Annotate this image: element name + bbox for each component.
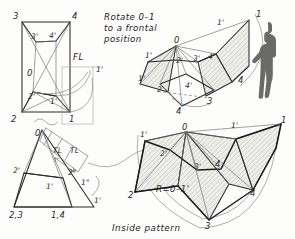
instruction-line-3: position	[103, 34, 142, 44]
instruction-line-2: to a frontal	[104, 23, 157, 33]
label-top-1: 1	[69, 114, 75, 124]
human-figure-for-scale	[252, 22, 276, 99]
label-front-23: 2,3	[9, 210, 23, 220]
inside-pattern-group: 0 1' 1 1' 2' 3' 4 2 4 3 R=0–1'	[128, 115, 287, 231]
label-pat-2: 2	[128, 190, 134, 200]
label-pic-4-bottom: 4	[176, 106, 182, 116]
label-pic-1p-lower: 1'	[138, 74, 145, 83]
label-top-2p: 2'	[28, 92, 35, 101]
label-top-2: 2	[11, 114, 17, 124]
label-fold-line: FL	[73, 52, 84, 62]
label-front-14: 1,4	[51, 210, 65, 220]
label-front-1pp: 1"	[81, 178, 90, 187]
label-radius-note: R=0–1'	[156, 184, 189, 194]
drawing-sheet: 3 4 3' 4' 0 2' 1' 2 1 FL 1' Rotate 0–1 t…	[0, 0, 295, 239]
label-top-3: 3	[13, 11, 19, 21]
label-pat-4: 4	[250, 188, 256, 198]
label-pat-3-bottom: 3	[205, 221, 211, 231]
true-length-band	[40, 128, 88, 172]
top-view-group: 3 4 3' 4' 0 2' 1' 2 1 FL 1'	[11, 11, 103, 124]
label-pat-1p-top: 1'	[231, 121, 238, 130]
label-pic-4p: 4'	[208, 52, 215, 61]
label-top-3p: 3'	[31, 32, 38, 41]
label-rotated-1p: 1'	[96, 65, 103, 74]
caption-inside-pattern: Inside pattern	[112, 223, 180, 233]
label-top-4: 4	[72, 11, 78, 21]
instruction-note: Rotate 0–1 to a frontal position	[103, 12, 157, 44]
label-front-1p: 1'	[46, 182, 53, 191]
label-pic-4-right: 4	[238, 75, 244, 85]
label-top-1p: 1'	[50, 97, 57, 106]
label-pic-1p-left: 1'	[145, 51, 152, 60]
label-front-2p: 2'	[13, 166, 20, 175]
label-pat-1: 1	[281, 115, 287, 125]
label-pic-0: 0	[174, 35, 180, 45]
label-top-0: 0	[27, 68, 33, 78]
rotation-arc-2	[70, 78, 93, 112]
label-pic-3p: 3'	[193, 54, 200, 63]
front-view-edge-2p1p	[24, 173, 63, 178]
label-pic-1p-top: 1'	[217, 18, 224, 27]
label-pat-0: 0	[182, 122, 188, 132]
technical-drawing-canvas: 3 4 3' 4' 0 2' 1' 2 1 FL 1' Rotate 0–1 t…	[0, 0, 295, 239]
top-view-upper-truncation	[22, 22, 70, 42]
label-front-1p-right: 1'	[94, 196, 101, 205]
label-pic-3: 3	[207, 96, 213, 106]
top-view-side-left	[33, 42, 36, 92]
label-pic-1: 1	[256, 9, 262, 19]
label-pic-2p: 2'	[176, 56, 183, 65]
transfer-arc-small	[92, 176, 99, 196]
label-top-4p: 4'	[49, 31, 56, 40]
label-pat-2p: 2'	[160, 149, 167, 158]
instruction-line-1: Rotate 0–1	[104, 12, 155, 22]
label-pic-2: 2	[157, 85, 162, 94]
label-pic-4p-lower: 4'	[185, 81, 192, 90]
label-pat-4-mid: 4	[215, 159, 221, 169]
label-pat-3p: 3'	[194, 162, 201, 171]
label-front-0: 0	[35, 128, 41, 138]
label-front-2pp: 2"	[68, 168, 77, 177]
human-figure-silhouette	[252, 22, 276, 99]
projection-brace	[34, 119, 58, 125]
rotation-arc-1	[56, 74, 90, 96]
front-view-group: 0 TL TL 2' 2" 1' 1" 1' 2,3 1,4	[9, 119, 150, 220]
label-front-tl-2: TL	[70, 146, 79, 155]
label-front-tl-1: TL	[53, 146, 62, 155]
label-pat-1p-left: 1'	[140, 130, 147, 139]
